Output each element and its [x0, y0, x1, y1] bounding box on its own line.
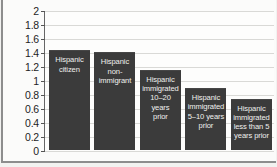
bar-label-line: Hispanic	[142, 75, 179, 84]
y-axis-tick-label: 0.2	[25, 131, 39, 143]
bar-label-line: non-	[96, 67, 133, 76]
y-axis-tick-label: 1.4	[25, 47, 39, 59]
y-axis-tick	[41, 67, 45, 68]
bar-label-line: prior	[142, 112, 179, 121]
bar-label: Hispanicimmigratedless than 5years prior	[231, 104, 272, 141]
bar-label-line: 5–10 years	[187, 112, 224, 121]
y-axis-tick-label: 0.4	[25, 117, 39, 129]
y-axis-tick-label: 1.2	[25, 61, 39, 73]
y-axis-tick	[41, 53, 45, 54]
bar-label-line: immigrant	[96, 76, 133, 85]
chart-frame: 00.20.40.60.811.21.41.61.82 Hispanicciti…	[1, 0, 276, 163]
bars-group: HispaniccitizenHispanicnon-immigrantHisp…	[47, 11, 275, 150]
y-axis-tick-label: 1	[33, 75, 39, 87]
y-axis-tick-label: 0	[33, 145, 39, 157]
plot-area: 00.20.40.60.811.21.41.61.82 Hispanicciti…	[44, 11, 274, 152]
bar-label: Hispanicnon-immigrant	[94, 57, 135, 85]
y-axis-tick	[41, 11, 45, 12]
bar-label-line: Hispanic	[96, 57, 133, 66]
bar-label-line: citizen	[51, 65, 88, 74]
bar: Hispanicimmigrated10–20 yearsprior	[140, 70, 181, 150]
bar-label-line: less than 5	[233, 122, 270, 131]
bar-label: Hispanicimmigrated10–20 yearsprior	[140, 75, 181, 121]
y-axis-tick-label: 1.6	[25, 33, 39, 45]
bar-label-line: Hispanic	[187, 93, 224, 102]
bar-label-line: years prior	[233, 131, 270, 140]
y-axis-tick	[41, 25, 45, 26]
bar-label-line: Hispanic	[51, 55, 88, 64]
bar-label-line: prior	[187, 121, 224, 130]
y-axis-tick-label: 0.6	[25, 103, 39, 115]
y-axis-tick	[41, 95, 45, 96]
bar-label-line: immigrated	[233, 113, 270, 122]
y-axis-tick	[41, 151, 45, 152]
y-axis-tick-label: 1.8	[25, 19, 39, 31]
y-axis-tick-label: 2	[33, 5, 39, 17]
bar: Hispanicnon-immigrant	[94, 52, 135, 149]
y-axis-tick	[41, 81, 45, 82]
bar: Hispanicimmigratedless than 5years prior	[231, 99, 272, 150]
gridline	[45, 151, 274, 152]
bar-label-line: immigrated	[187, 102, 224, 111]
y-axis-tick	[41, 137, 45, 138]
bar: Hispanicimmigrated5–10 yearsprior	[185, 88, 226, 150]
y-axis-tick	[41, 39, 45, 40]
bar-label: Hispanicimmigrated5–10 yearsprior	[185, 93, 226, 130]
y-axis-tick	[41, 123, 45, 124]
bar-label-line: 10–20 years	[142, 93, 179, 112]
bar-label-line: Hispanic	[233, 104, 270, 113]
bar-label-line: immigrated	[142, 84, 179, 93]
y-axis-tick	[41, 109, 45, 110]
bar-chart: 00.20.40.60.811.21.41.61.82 Hispanicciti…	[0, 0, 277, 167]
bar: Hispaniccitizen	[49, 50, 90, 149]
y-axis-tick-label: 0.8	[25, 89, 39, 101]
bar-label: Hispaniccitizen	[49, 55, 90, 74]
